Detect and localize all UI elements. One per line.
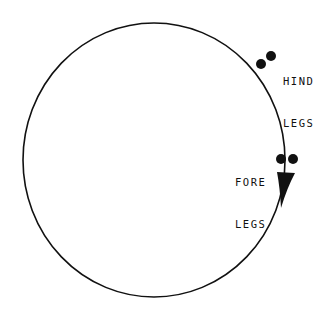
fore-label-line1: FORE — [235, 175, 266, 189]
hind-leg-dot-1 — [256, 59, 266, 69]
hind-legs-label: HIND LEGS — [283, 46, 314, 144]
direction-arrow-icon — [277, 172, 295, 208]
fore-leg-dot-2 — [288, 154, 298, 164]
fore-label-line2: LEGS — [235, 217, 266, 231]
hind-label-line2: LEGS — [283, 116, 314, 130]
hind-leg-dot-2 — [266, 51, 276, 61]
fore-legs-label: FORE LEGS — [235, 147, 266, 245]
fore-leg-dot-1 — [276, 154, 286, 164]
hind-label-line1: HIND — [283, 74, 314, 88]
